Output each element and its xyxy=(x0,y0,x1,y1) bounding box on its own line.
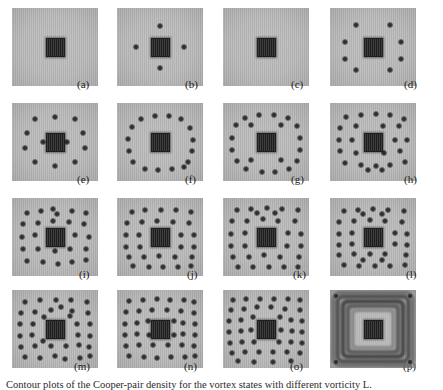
panel-i-vortex-9 xyxy=(81,221,87,227)
panel-f-vortex-0 xyxy=(138,116,144,122)
panel-n-vortex-25 xyxy=(179,342,185,348)
panel-p-vortex-2 xyxy=(333,359,339,365)
panel-g-vortex-1 xyxy=(256,112,262,118)
panel-n-vortex-12 xyxy=(122,321,128,327)
panel-i-vortex-16 xyxy=(52,248,58,254)
panel-m-vortex-22 xyxy=(48,343,54,349)
panel-e-vortex-11 xyxy=(64,139,70,145)
panel-o-vortex-32 xyxy=(256,349,262,355)
panel-m-vortex-2 xyxy=(53,297,59,303)
panel-g-vortex-15 xyxy=(294,158,300,164)
panel-o-vortex-33 xyxy=(270,349,276,355)
panel-m-core xyxy=(46,320,65,339)
panel-n-vortex-31 xyxy=(182,354,188,360)
panel-o-vortex-14 xyxy=(250,314,256,320)
panel-o-vortex-16 xyxy=(288,317,294,323)
panel-h-vortex-22 xyxy=(365,167,371,173)
panel-j-vortex-26 xyxy=(175,264,181,270)
panel-m xyxy=(12,290,98,368)
panel-g-vortex-17 xyxy=(259,169,265,175)
panel-a-core xyxy=(46,38,65,57)
panel-o-vortex-15 xyxy=(277,314,283,320)
panel-k-vortex-2 xyxy=(264,205,270,211)
panel-h-vortex-17 xyxy=(342,160,348,166)
panel-o-vortex-38 xyxy=(270,359,276,365)
panel-i-vortex-5 xyxy=(20,221,26,227)
panel-l-vortex-25 xyxy=(372,263,378,269)
panel-g-vortex-0 xyxy=(242,115,248,121)
panel-e-vortex-3 xyxy=(24,130,30,136)
panel-k-vortex-21 xyxy=(277,254,283,260)
panel-k-vortex-12 xyxy=(285,230,291,236)
panel-j-vortex-0 xyxy=(129,209,135,215)
panel-j xyxy=(117,198,203,276)
panel-l-vortex-7 xyxy=(367,217,373,223)
panel-l-vortex-29 xyxy=(379,211,385,217)
panel-m-vortex-24 xyxy=(76,342,82,348)
panel-label-l: (l) xyxy=(406,269,416,280)
panel-d xyxy=(330,8,416,86)
panel-h xyxy=(330,103,416,181)
panel-label-c: (c) xyxy=(291,79,303,90)
panel-b xyxy=(117,8,203,86)
panel-k-vortex-8 xyxy=(275,218,281,224)
panel-f-vortex-12 xyxy=(142,166,148,172)
panel-c xyxy=(223,8,309,86)
panel-k-vortex-27 xyxy=(295,264,301,270)
panel-o-vortex-2 xyxy=(257,296,263,302)
panel-j-vortex-19 xyxy=(141,254,147,260)
panel-i-vortex-21 xyxy=(55,261,61,267)
panel-p-vortex-3 xyxy=(407,359,413,365)
panel-m-vortex-30 xyxy=(77,355,83,361)
panel-label-d: (d) xyxy=(404,79,417,90)
panel-k xyxy=(223,198,309,276)
panel-j-core xyxy=(151,228,170,247)
panel-j-vortex-4 xyxy=(188,209,194,215)
panel-f-vortex-2 xyxy=(166,113,172,119)
panel-label-k: (k) xyxy=(293,269,306,280)
panel-m-vortex-5 xyxy=(18,310,24,316)
panel-k-vortex-23 xyxy=(235,264,241,270)
panel-m-vortex-17 xyxy=(29,332,35,338)
panel-o-vortex-10 xyxy=(282,306,288,312)
panel-p xyxy=(330,290,416,368)
panel-k-core xyxy=(257,228,276,247)
panel-l-vortex-23 xyxy=(341,262,347,268)
panel-d-core xyxy=(364,38,383,57)
panel-b-vortex-2 xyxy=(133,44,139,50)
panel-g-vortex-18 xyxy=(272,169,278,175)
panel-b-vortex-0 xyxy=(157,23,163,29)
panel-m-vortex-12 xyxy=(30,321,36,327)
panel-l-vortex-27 xyxy=(402,262,408,268)
panel-l-vortex-22 xyxy=(403,252,409,258)
panel-f-vortex-7 xyxy=(190,137,196,143)
panel-g xyxy=(223,103,309,181)
panel-g-core xyxy=(257,133,276,152)
panel-l-vortex-12 xyxy=(392,230,398,236)
panel-label-g: (g) xyxy=(291,174,304,185)
panel-label-a: (a) xyxy=(77,79,89,90)
panel-i-vortex-20 xyxy=(40,259,46,265)
panel-o-vortex-36 xyxy=(235,358,241,364)
panel-g-vortex-2 xyxy=(271,112,277,118)
panel-g-vortex-12 xyxy=(234,158,240,164)
panel-k-vortex-11 xyxy=(242,230,248,236)
panel-n-vortex-32 xyxy=(192,353,198,359)
panel-p-core xyxy=(364,320,383,339)
panel-n-vortex-13 xyxy=(134,320,140,326)
panel-c-core xyxy=(257,38,276,57)
panel-l-vortex-15 xyxy=(349,241,355,247)
panel-m-vortex-10 xyxy=(85,310,91,316)
panel-o-vortex-4 xyxy=(285,296,291,302)
panel-n-vortex-35 xyxy=(171,332,177,338)
panel-h-vortex-10 xyxy=(349,137,355,143)
panel-k-vortex-10 xyxy=(228,231,234,237)
panel-j-vortex-12 xyxy=(178,232,184,238)
panel-k-vortex-6 xyxy=(244,218,250,224)
panel-o-core xyxy=(257,320,276,339)
panel-m-vortex-4 xyxy=(84,299,90,305)
panel-m-vortex-28 xyxy=(52,353,58,359)
panel-label-h: (h) xyxy=(404,174,417,185)
panel-n-vortex-26 xyxy=(191,343,197,349)
panel-m-vortex-33 xyxy=(67,313,73,319)
